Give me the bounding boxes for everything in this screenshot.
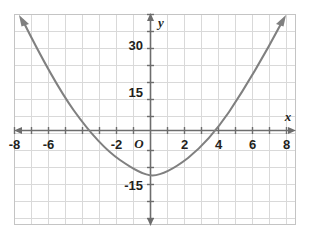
- x-tick-label-2: 2: [181, 137, 188, 152]
- coordinate-plane: -8 -6 -2 2 4 6 8 30 15 -15 O x y: [0, 0, 311, 235]
- y-axis-label: y: [156, 15, 164, 30]
- y-tick-label-15: 15: [129, 85, 143, 100]
- canvas-background: [0, 0, 311, 235]
- origin-label: O: [134, 136, 144, 151]
- x-tick-label-neg8: -8: [9, 137, 21, 152]
- x-axis-label: x: [284, 109, 292, 124]
- x-tick-label-neg6: -6: [43, 137, 55, 152]
- x-tick-label-4: 4: [215, 137, 223, 152]
- graph-figure: -8 -6 -2 2 4 6 8 30 15 -15 O x y: [0, 0, 311, 235]
- x-tick-label-neg2: -2: [111, 137, 123, 152]
- y-tick-label-neg15: -15: [124, 178, 143, 193]
- x-tick-label-8: 8: [283, 137, 290, 152]
- y-tick-label-30: 30: [129, 38, 143, 53]
- x-tick-label-6: 6: [249, 137, 256, 152]
